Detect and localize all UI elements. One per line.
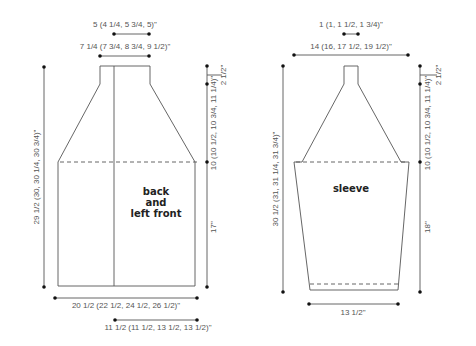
dim-endpoint-icon — [418, 82, 422, 86]
dim-endpoint-icon — [147, 54, 151, 58]
dim-endpoint-icon — [42, 65, 46, 69]
dim-endpoint-icon — [418, 160, 422, 164]
back-body-length-label: 17" — [209, 221, 218, 233]
back-label-line1: back — [143, 186, 170, 197]
dim-endpoint-icon — [292, 53, 296, 57]
dim-endpoint-icon — [342, 32, 346, 36]
back-outline — [58, 66, 195, 286]
schematic-diagram: back and left front 5 (4 1/4, 5 3/4, 5)"… — [0, 0, 476, 346]
back-neck-depth-label: 2 1/2" — [219, 65, 228, 86]
back-piece: back and left front 5 (4 1/4, 5 3/4, 5)"… — [32, 20, 228, 332]
back-bottom-width-label: 20 1/2 (22 1/2, 24 1/2, 26 1/2)" — [72, 301, 180, 310]
sleeve-cap-depth-label: 10 (10 1/2, 10 3/4, 11 1/4)" — [423, 76, 432, 170]
dim-endpoint-icon — [195, 296, 199, 300]
dim-endpoint-icon — [356, 32, 360, 36]
back-label-line2: and — [145, 197, 166, 208]
back-neck-width-label: 5 (4 1/4, 5 3/4, 5)" — [93, 20, 157, 29]
front-width-label: 11 1/2 (11 1/2, 13 1/2, 13 1/2)" — [104, 323, 211, 332]
dim-endpoint-icon — [418, 290, 422, 294]
dim-endpoint-icon — [406, 53, 410, 57]
dim-endpoint-icon — [98, 54, 102, 58]
dim-endpoint-icon — [195, 318, 199, 322]
dim-endpoint-icon — [281, 64, 285, 68]
dim-endpoint-icon — [418, 64, 422, 68]
sleeve-upper-width-label: 14 (16, 17 1/2, 19 1/2)" — [310, 42, 392, 51]
dim-endpoint-icon — [396, 302, 400, 306]
dim-endpoint-icon — [307, 302, 311, 306]
sleeve-label: sleeve — [333, 183, 369, 194]
back-total-length-label: 29 1/2 (30, 30 1/4, 30 3/4)" — [32, 129, 41, 224]
back-shoulder-width-label: 7 1/4 (7 3/4, 8 3/4, 9 1/2)" — [80, 42, 171, 51]
dim-endpoint-icon — [281, 290, 285, 294]
sleeve-piece: sleeve 1 (1, 1 1/2, 1 3/4)" 14 (16, 17 1… — [271, 20, 443, 317]
back-yoke-depth-label: 10 (10 1/2, 10 3/4, 11 1/4)" — [209, 76, 218, 170]
dim-endpoint-icon — [53, 296, 57, 300]
dim-endpoint-icon — [205, 64, 209, 68]
back-label-line3: left front — [131, 208, 182, 219]
sleeve-total-length-label: 30 1/2 (31, 31 1/4, 31 3/4)" — [271, 131, 280, 226]
sleeve-cap-top-label: 2 1/2" — [434, 65, 443, 86]
sleeve-outline — [294, 66, 409, 290]
dim-endpoint-icon — [113, 318, 117, 322]
sleeve-arm-length-label: 18" — [423, 221, 432, 233]
sleeve-top-width-label: 1 (1, 1 1/2, 1 3/4)" — [319, 20, 383, 29]
dim-endpoint-icon — [205, 285, 209, 289]
dim-endpoint-icon — [147, 32, 151, 36]
dim-endpoint-icon — [42, 285, 46, 289]
dim-endpoint-icon — [112, 32, 116, 36]
sleeve-cuff-width-label: 13 1/2" — [340, 308, 365, 317]
